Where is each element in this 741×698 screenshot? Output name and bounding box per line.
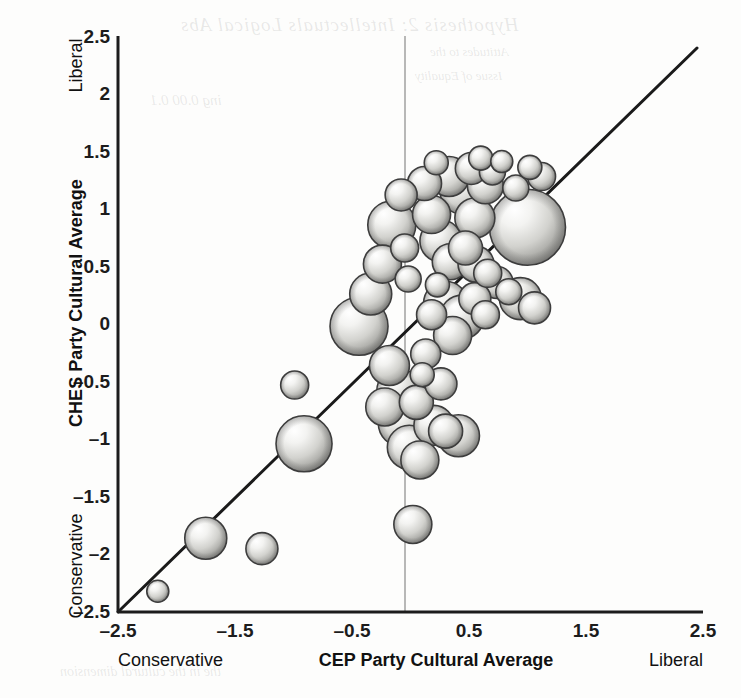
bubble-point (395, 266, 421, 292)
bubble-point (491, 151, 513, 173)
x-tick-label: 1.5 (546, 620, 626, 642)
bubble-point (276, 416, 332, 472)
bubble-point (471, 301, 499, 329)
bubble-point (490, 189, 566, 265)
y-axis-caption-left: Conservative (66, 513, 87, 618)
x-axis-caption-right: Liberal (649, 650, 703, 671)
bubble-point (147, 580, 169, 602)
bubble-point (185, 517, 227, 559)
bubble-point (385, 179, 417, 211)
bubble-point (519, 292, 551, 324)
bubble-point (391, 234, 419, 262)
bubble-point (469, 146, 493, 170)
bubble-point (410, 363, 434, 387)
bubble-point (401, 441, 439, 479)
bubble-point (246, 533, 278, 565)
x-axis-caption-left: Conservative (118, 650, 223, 671)
y-axis-caption-right: Liberal (66, 39, 87, 93)
x-tick-label: –0.5 (312, 620, 392, 642)
bubble-point (518, 155, 542, 179)
bubble-series (147, 146, 566, 602)
bubble-scatter-figure: Hypothesis 2: Intellectuals Logical Abs … (0, 0, 741, 698)
bubble-point (429, 414, 463, 448)
bubble-point (474, 259, 502, 287)
bubble-point (448, 231, 482, 265)
x-axis-caption-center: CEP Party Cultural Average (319, 650, 553, 671)
y-axis-caption: Conservative CHES Party Cultural Average… (66, 39, 87, 619)
scatter-plot-canvas (0, 0, 741, 698)
bubble-point (413, 196, 451, 234)
bubble-point (366, 388, 404, 426)
y-axis-caption-center: CHES Party Cultural Average (66, 179, 87, 427)
bubble-point (425, 273, 449, 297)
x-tick-label: 2.5 (663, 620, 741, 642)
bubble-point (424, 151, 448, 175)
bubble-point (394, 505, 432, 543)
x-axis-caption: Conservative CEP Party Cultural Average … (118, 650, 703, 671)
x-tick-label: –2.5 (78, 620, 158, 642)
x-tick-label: 0.5 (429, 620, 509, 642)
bubble-point (369, 345, 409, 385)
x-tick-label: –1.5 (195, 620, 275, 642)
bubble-point (496, 279, 522, 305)
bubble-point (417, 300, 447, 330)
bubble-point (281, 371, 309, 399)
